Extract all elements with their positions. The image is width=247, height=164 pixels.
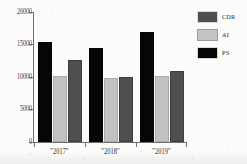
y-tick-label-20000: 20000 (17, 8, 32, 15)
legend-swatch-cdr-icon (197, 11, 218, 23)
bar-ps-1 (89, 48, 103, 142)
legend-item-ps: PS (197, 46, 245, 64)
x-tick-end (186, 143, 187, 147)
legend-swatch-ps-icon (197, 47, 218, 59)
bar-ai-2 (155, 76, 169, 142)
x-tick-2 (136, 143, 137, 147)
bar-chart-figure: 20000 15000 10000 5000 0 "2017" "2018" "… (0, 0, 247, 164)
bar-cdr-0 (68, 60, 82, 142)
legend-item-cdr: CDR (197, 10, 245, 28)
x-tick-label-2018: "2018" (85, 148, 136, 156)
legend-item-ai: AI (197, 28, 245, 46)
legend-label-ai: AI (222, 31, 229, 39)
x-tick-1 (85, 143, 86, 147)
bar-ps-2 (140, 32, 154, 142)
x-axis-line (34, 142, 187, 143)
y-tick-label-5000: 5000 (20, 105, 32, 112)
y-tick-label-15000: 15000 (17, 40, 32, 47)
bar-ai-0 (53, 76, 67, 142)
bar-cdr-1 (119, 77, 133, 142)
chart-legend: CDR AI PS (197, 10, 245, 64)
bar-ps-0 (38, 42, 52, 142)
legend-label-cdr: CDR (222, 13, 235, 21)
y-tick-label-10000: 10000 (17, 73, 32, 80)
bar-ai-1 (104, 78, 118, 142)
bars-layer (34, 12, 187, 142)
legend-swatch-ai-icon (197, 29, 218, 41)
x-tick-label-2017: "2017" (34, 148, 85, 156)
x-tick-label-2019: "2019" (136, 148, 187, 156)
y-tick-label-0: 0 (29, 138, 32, 145)
bar-cdr-2 (170, 71, 184, 143)
x-tick-start (34, 143, 35, 147)
legend-label-ps: PS (222, 49, 229, 57)
